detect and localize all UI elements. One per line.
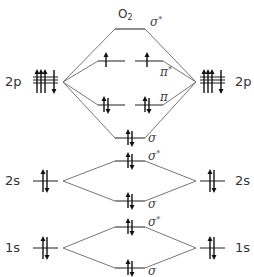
right-2p-electrons-icon	[202, 69, 224, 94]
sigma-star-2p-label: σ*	[150, 15, 162, 29]
pi-star-electron-up-icon	[104, 52, 109, 67]
left-2p-label: 2p	[5, 74, 22, 89]
right-2s-label: 2s	[235, 173, 250, 188]
sigma-star-2s-label: σ*	[148, 149, 160, 163]
right-2p-label: 2p	[235, 74, 252, 89]
molecule-title: O2	[118, 7, 133, 22]
pi-star-electron-up-icon	[145, 52, 150, 67]
left-2p-electrons-icon	[35, 69, 57, 94]
pi-star-2p-label: π*	[159, 65, 172, 79]
pi-2p-label: π	[159, 90, 169, 104]
2p-block: σ* π* π σ 2p	[5, 15, 252, 147]
1s-block: σ* σ 1s 1s	[5, 215, 250, 277]
left-2s-label: 2s	[5, 173, 20, 188]
sigma-star-1s-label: σ*	[148, 215, 160, 229]
right-1s-label: 1s	[235, 240, 250, 255]
mo-diagram: O2 σ* π*	[0, 0, 254, 277]
sigma-2s-label: σ	[148, 197, 157, 211]
left-1s-label: 1s	[5, 240, 20, 255]
sigma-2p-label: σ	[148, 131, 157, 145]
sigma-1s-label: σ	[148, 264, 157, 277]
2s-block: σ* σ 2s 2s	[5, 149, 250, 211]
